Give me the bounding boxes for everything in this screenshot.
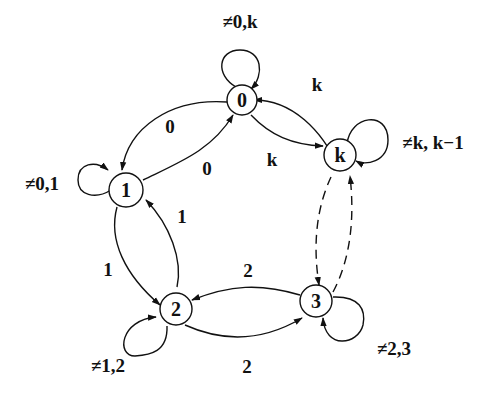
edge-3-to-k [333, 176, 352, 292]
edge-label-3-to-2: 2 [243, 260, 253, 281]
edge-2-to-1 [146, 200, 178, 287]
state-node-0: 0 [227, 85, 257, 115]
edge-0-to-k [251, 115, 323, 146]
svg-text:1: 1 [121, 179, 131, 201]
svg-text:3: 3 [311, 290, 321, 312]
svg-text:0: 0 [237, 89, 247, 111]
self-loop-0 [222, 50, 260, 89]
edge-1-to-0 [143, 115, 233, 180]
self-loop-label-1: ≠0,1 [25, 173, 59, 194]
self-loop-2 [124, 317, 167, 356]
edge-label-2-to-3: 2 [242, 356, 252, 377]
edge-2-to-3 [185, 318, 302, 337]
state-diagram: 0 1 2 3 k 0 0 k k 1 1 2 2 ≠0,k ≠0,1 ≠1,2… [0, 0, 496, 396]
self-loop-label-2: ≠1,2 [91, 355, 125, 376]
edge-label-0-to-k: k [267, 149, 278, 170]
edge-label-k-to-0: k [312, 74, 323, 95]
edge-label-1-to-0: 0 [202, 158, 212, 179]
self-loop-label-k: ≠k, k−1 [402, 132, 463, 153]
self-loop-label-3: ≠2,3 [377, 338, 411, 359]
state-node-3: 3 [300, 285, 332, 317]
state-node-1: 1 [109, 173, 143, 207]
edge-label-1-to-2: 1 [103, 259, 113, 280]
edge-label-0-to-1: 0 [165, 116, 175, 137]
edge-label-2-to-1: 1 [177, 206, 187, 227]
self-loop-1 [78, 164, 111, 195]
edge-k-to-3 [316, 177, 331, 285]
state-node-2: 2 [160, 293, 192, 325]
svg-text:2: 2 [171, 298, 181, 320]
svg-text:k: k [334, 144, 346, 166]
state-node-k: k [324, 139, 356, 171]
edge-1-to-2 [115, 207, 160, 305]
edge-3-to-2 [192, 287, 300, 300]
self-loop-label-0: ≠0,k [222, 11, 258, 32]
